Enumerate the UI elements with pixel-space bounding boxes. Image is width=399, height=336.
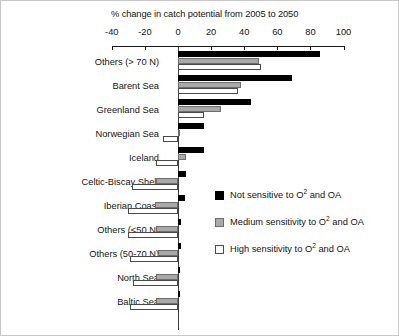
bar: [178, 58, 259, 64]
chart-title: % change in catch potential from 2005 to…: [111, 9, 391, 20]
bar: [178, 130, 180, 136]
bar: [128, 208, 178, 214]
bar: [130, 256, 178, 262]
x-tick-label: 80: [305, 27, 315, 37]
bar-group: Norwegian Sea: [1, 123, 399, 147]
bar: [178, 219, 181, 225]
bar: [156, 160, 178, 166]
category-label: Iceland: [1, 152, 169, 164]
bar-group: Baltic Sea: [1, 291, 399, 315]
legend-item: High sensitivity to O2 and OA: [215, 244, 395, 271]
bar: [178, 106, 221, 112]
bar: [178, 75, 292, 81]
bar-group: Barent Sea: [1, 75, 399, 99]
legend-swatch-black: [215, 191, 224, 200]
bar: [178, 82, 241, 88]
bar: [133, 280, 178, 286]
bar: [156, 178, 178, 184]
bar: [178, 99, 251, 105]
x-tick-label: 60: [272, 27, 282, 37]
bar: [156, 298, 178, 304]
catch-potential-bar-chart: % change in catch potential from 2005 to…: [0, 0, 399, 336]
legend-label: High sensitivity to O2 and OA: [230, 244, 350, 255]
legend-swatch-gray: [215, 218, 224, 227]
category-label: Others (> 70 N): [1, 56, 169, 68]
bar: [178, 88, 238, 94]
bar: [163, 136, 178, 142]
bar: [178, 51, 320, 57]
x-tick-label: 20: [206, 27, 216, 37]
bar: [178, 291, 180, 297]
bar: [158, 250, 178, 256]
x-tick-label: 40: [239, 27, 249, 37]
category-label: Greenland Sea: [1, 104, 169, 116]
legend-swatch-white: [215, 245, 224, 254]
x-tick-label: -20: [138, 27, 151, 37]
legend-item: Medium sensitivity to O2 and OA: [215, 217, 395, 244]
bar: [178, 112, 204, 118]
bar: [156, 226, 178, 232]
category-label: Norwegian Sea: [1, 128, 169, 140]
bar: [178, 243, 181, 249]
bar: [132, 184, 178, 190]
bar: [178, 123, 204, 129]
x-tick-label: 0: [175, 27, 180, 37]
legend-item: Not sensitive to O2 and OA: [215, 190, 395, 217]
legend-label: Medium sensitivity to O2 and OA: [230, 217, 364, 228]
x-tick-label: 100: [336, 27, 352, 37]
chart-legend: Not sensitive to O2 and OAMedium sensiti…: [215, 190, 395, 271]
bar: [178, 64, 261, 70]
bar: [178, 195, 185, 201]
bar: [130, 304, 178, 310]
legend-label: Not sensitive to O2 and OA: [230, 190, 341, 201]
bar-group: Greenland Sea: [1, 99, 399, 123]
bar: [155, 202, 178, 208]
x-tick-label: -40: [105, 27, 118, 37]
bar: [178, 171, 186, 177]
bar: [128, 232, 178, 238]
bar: [178, 154, 186, 160]
bar: [178, 267, 180, 273]
bar-group: Others (> 70 N): [1, 51, 399, 75]
bar: [178, 147, 204, 153]
bar: [156, 274, 178, 280]
category-label: Barent Sea: [1, 80, 169, 92]
bar-group: Iceland: [1, 147, 399, 171]
